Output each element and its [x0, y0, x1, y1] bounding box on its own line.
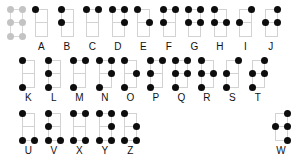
- braille-dot-2-empty: [109, 19, 116, 26]
- braille-cell-q: Q: [169, 57, 195, 104]
- braille-cell-label: W: [268, 145, 294, 157]
- braille-dot-2-empty: [70, 123, 77, 130]
- braille-dot-4-empty: [57, 110, 64, 117]
- braille-dot-2-empty: [121, 123, 128, 130]
- braille-dot-5-raised: [108, 70, 115, 77]
- braille-dot-6-empty: [248, 33, 255, 40]
- braille-dot-5-empty: [95, 19, 102, 26]
- braille-cell-b: B: [54, 6, 80, 53]
- braille-dot-4-empty: [223, 6, 230, 13]
- braille-dot-1-raised: [185, 6, 192, 13]
- braille-dot-grid: [223, 57, 242, 90]
- braille-dot-grid: [172, 57, 191, 90]
- braille-dot-5-raised: [274, 19, 281, 26]
- braille-dot-4-empty: [146, 6, 153, 13]
- braille-dot-5-empty: [57, 70, 64, 77]
- braille-dot-4-raised: [121, 6, 128, 13]
- braille-dot-4-raised: [261, 57, 268, 64]
- braille-dot-5-raised: [19, 19, 26, 26]
- braille-dot-2-raised: [249, 70, 256, 77]
- braille-dot-3-empty: [211, 33, 218, 40]
- braille-cell-t: T: [245, 57, 271, 104]
- braille-dot-2-empty: [96, 70, 103, 77]
- braille-dot-1-raised: [96, 57, 103, 64]
- braille-dot-6-raised: [31, 137, 38, 144]
- braille-dot-grid: [109, 6, 128, 39]
- braille-dot-5-raised: [184, 70, 191, 77]
- braille-cell-m: M: [67, 57, 93, 104]
- braille-dot-grid: [19, 57, 38, 90]
- braille-dot-3-raised: [172, 84, 179, 91]
- braille-dot-1-raised: [109, 6, 116, 13]
- braille-dot-3-empty: [83, 33, 90, 40]
- braille-dot-5-empty: [31, 123, 38, 130]
- braille-cell-label: N: [92, 92, 118, 104]
- braille-dot-4-raised: [248, 6, 255, 13]
- braille-cell-a: A: [29, 6, 55, 53]
- braille-dot-3-raised: [223, 84, 230, 91]
- braille-dot-6-empty: [146, 33, 153, 40]
- braille-dot-5-raised: [108, 123, 115, 130]
- braille-dot-grid: [7, 6, 26, 39]
- braille-dot-6-empty: [95, 33, 102, 40]
- braille-cell-label: T: [245, 92, 271, 104]
- braille-dot-2-raised: [172, 70, 179, 77]
- braille-dot-2-raised: [7, 19, 14, 26]
- braille-dot-grid: [96, 57, 115, 90]
- braille-dot-4-raised: [172, 6, 179, 13]
- braille-dot-3-empty: [109, 33, 116, 40]
- braille-dot-2-empty: [83, 19, 90, 26]
- braille-cell-label: E: [131, 41, 157, 53]
- braille-cell-label: Y: [92, 145, 118, 157]
- braille-cell-d: D: [105, 6, 131, 53]
- braille-cell-v: V: [41, 110, 67, 157]
- braille-dot-6-empty: [133, 84, 140, 91]
- braille-dot-2-empty: [32, 19, 39, 26]
- braille-dot-1-raised: [172, 57, 179, 64]
- braille-dot-4-raised: [197, 6, 204, 13]
- braille-dot-1-raised: [58, 6, 65, 13]
- braille-cell-label: V: [41, 145, 67, 157]
- braille-dot-1-raised: [198, 57, 205, 64]
- braille-dot-6-empty: [197, 33, 204, 40]
- braille-dot-6-raised: [57, 137, 64, 144]
- braille-dot-3-empty: [272, 137, 279, 144]
- braille-cell-f: F: [156, 6, 182, 53]
- braille-dot-2-empty: [70, 70, 77, 77]
- braille-cell-c: C: [80, 6, 106, 53]
- braille-cell-label: L: [41, 92, 67, 104]
- braille-dot-grid: [272, 110, 291, 143]
- braille-dot-6-empty: [172, 33, 179, 40]
- braille-dot-6-raised: [19, 33, 26, 40]
- braille-dot-grid: [19, 110, 38, 143]
- braille-dot-3-raised: [121, 84, 128, 91]
- braille-dot-5-raised: [261, 70, 268, 77]
- braille-cell-label: Q: [169, 92, 195, 104]
- braille-dot-4-raised: [82, 57, 89, 64]
- braille-dot-4-empty: [210, 57, 217, 64]
- braille-cell-label: U: [16, 145, 42, 157]
- braille-cell-w: W: [268, 110, 294, 157]
- braille-dot-6-empty: [210, 84, 217, 91]
- braille-dot-1-raised: [147, 57, 154, 64]
- braille-dot-grid: [70, 110, 89, 143]
- braille-dot-2-empty: [19, 70, 26, 77]
- braille-dot-3-raised: [121, 137, 128, 144]
- braille-cell-o: O: [118, 57, 144, 104]
- braille-dot-3-raised: [70, 84, 77, 91]
- braille-dot-1-empty: [272, 110, 279, 117]
- braille-dot-5-raised: [197, 19, 204, 26]
- braille-dot-6-empty: [235, 84, 242, 91]
- braille-dot-3-raised: [96, 137, 103, 144]
- braille-dot-grid: [96, 110, 115, 143]
- braille-cell-label: S: [220, 92, 246, 104]
- braille-dot-1-raised: [45, 110, 52, 117]
- braille-dot-grid: [236, 6, 255, 39]
- braille-dot-1-empty: [262, 6, 269, 13]
- braille-dot-4-empty: [133, 57, 140, 64]
- braille-dot-1-empty: [249, 57, 256, 64]
- braille-dot-2-raised: [262, 19, 269, 26]
- braille-dot-1-raised: [7, 6, 14, 13]
- braille-alphabet-chart: ABCDEFGHIJKLMNOPQRSTUVXYZW: [0, 0, 300, 164]
- braille-dot-2-empty: [19, 123, 26, 130]
